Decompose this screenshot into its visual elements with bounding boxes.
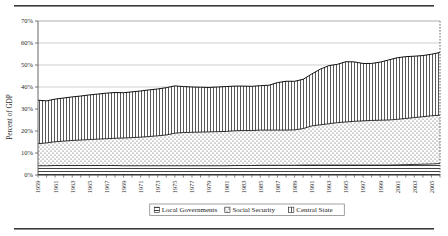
legend-swatch-local-governments — [154, 207, 159, 212]
legend-swatch-central-state — [289, 207, 294, 212]
chart-legend: Local GovernmentsSocial SecurityCentral … — [150, 204, 345, 216]
x-tick-label: 1967 — [103, 180, 110, 194]
x-tick-label: 1963 — [69, 181, 76, 194]
legend-swatch-social-security — [225, 207, 230, 212]
y-tick-label: 20% — [21, 127, 34, 134]
x-tick-label: 1989 — [291, 181, 298, 194]
x-tick-label: 1983 — [240, 181, 247, 194]
x-tick-label: 1973 — [154, 181, 161, 194]
x-tick-label: 1969 — [120, 181, 127, 194]
x-tick-label: 1975 — [171, 181, 178, 194]
x-tick-label: 1959 — [34, 181, 41, 194]
y-tick-label: 10% — [21, 149, 34, 156]
legend-label-local-governments: Local Governments — [162, 206, 218, 214]
x-tick-label: 1991 — [308, 181, 315, 194]
legend-label-social-security: Social Security — [232, 206, 275, 214]
y-axis-ticks: 0%10%20%30%40%50%60%70% — [21, 17, 38, 178]
x-tick-label: 1981 — [223, 181, 230, 194]
x-tick-label: 1965 — [86, 181, 93, 194]
y-tick-label: 60% — [21, 39, 34, 46]
series-areas — [38, 52, 440, 175]
x-tick-label: 1985 — [257, 181, 264, 194]
x-tick-label: 1999 — [377, 181, 384, 194]
x-tick-label: 1995 — [342, 181, 349, 194]
bottom-divider-rule — [14, 228, 434, 230]
y-tick-label: 40% — [21, 83, 34, 90]
x-tick-label: 1977 — [188, 180, 195, 194]
y-tick-label: 30% — [21, 105, 34, 112]
y-tick-label: 0% — [24, 171, 33, 178]
x-tick-label: 1997 — [359, 180, 366, 194]
top-divider-rule — [14, 5, 434, 7]
x-tick-label: 1993 — [325, 181, 332, 194]
y-tick-label: 70% — [21, 17, 34, 24]
x-tick-label: 1961 — [52, 181, 59, 194]
legend-label-central-state: Central State — [296, 206, 332, 214]
x-tick-label: 1971 — [137, 181, 144, 194]
stacked-area-chart: 0%10%20%30%40%50%60%70% 1959196119631965… — [0, 12, 448, 222]
x-axis-ticks: 1959196119631965196719691971197319751977… — [34, 175, 440, 193]
x-tick-label: 2001 — [394, 181, 401, 194]
x-tick-label: 2005 — [428, 181, 435, 194]
x-tick-label: 2003 — [411, 181, 418, 194]
chart-area: 0%10%20%30%40%50%60%70% 1959196119631965… — [0, 12, 448, 222]
x-tick-label: 1987 — [274, 180, 281, 194]
y-axis-title: Percent of GDP — [6, 94, 14, 140]
x-tick-label: 1979 — [205, 181, 212, 194]
figure-container: 0%10%20%30%40%50%60%70% 1959196119631965… — [0, 0, 448, 236]
y-tick-label: 50% — [21, 61, 34, 68]
